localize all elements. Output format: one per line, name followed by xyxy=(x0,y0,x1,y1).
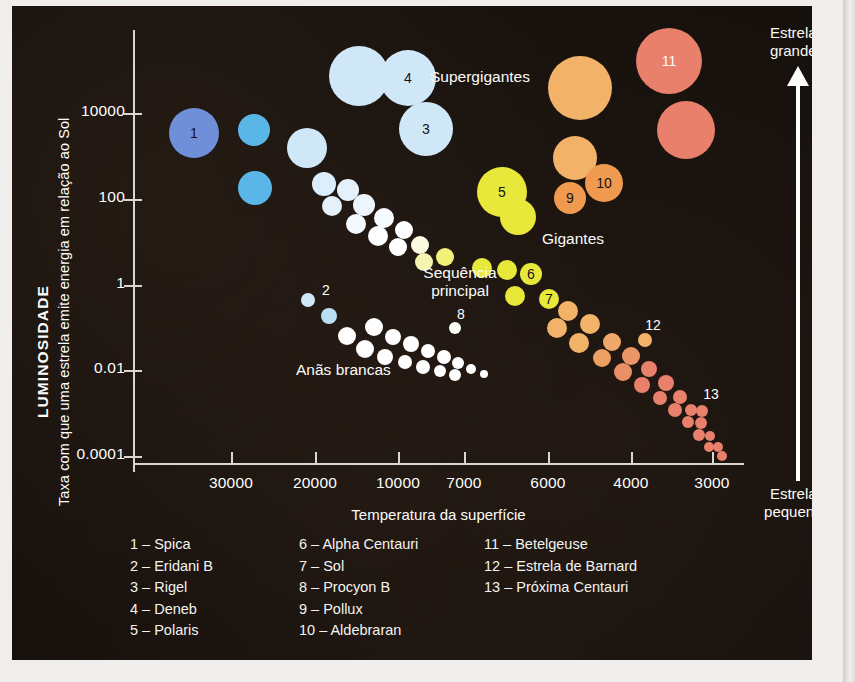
star-dot-supergiant xyxy=(657,101,715,159)
legend-item: 1 – Spica xyxy=(130,534,213,556)
legend-column-3: 11 – Betelgeuse12 – Estrela de Barnard13… xyxy=(484,534,637,599)
star-dot-main-sequence xyxy=(395,221,413,239)
annotation-white-dwarfs: Anãs brancas xyxy=(296,361,391,379)
star-dot-main-sequence xyxy=(411,236,429,254)
star-dot-main-sequence xyxy=(668,403,682,417)
x-tick xyxy=(464,452,466,463)
legend-item: 13 – Próxima Centauri xyxy=(484,577,637,599)
x-tick-label: 30000 xyxy=(185,474,277,492)
star-dot-white-dwarf xyxy=(403,336,419,352)
legend-item: 10 – Aldebraran xyxy=(299,620,418,642)
star-dot-white-dwarf xyxy=(480,370,488,378)
legend-item: 11 – Betelgeuse xyxy=(484,534,637,556)
star-dot-1 xyxy=(169,108,219,158)
size-arrow-head xyxy=(787,66,809,86)
star-dot-10 xyxy=(585,164,623,202)
star-dot-white-dwarf xyxy=(466,364,476,374)
star-dot-main-sequence xyxy=(695,417,707,429)
hr-diagram-plot: 1000010010.010.0001300002000010000700060… xyxy=(12,6,812,660)
legend-column-2: 6 – Alpha Centauri7 – Sol8 – Procyon B9 … xyxy=(299,534,418,642)
legend-item: 4 – Deneb xyxy=(130,599,213,621)
star-dot-white-dwarf xyxy=(338,327,356,345)
y-tick xyxy=(124,199,142,201)
y-tick xyxy=(124,370,142,372)
star-dot-white-dwarf xyxy=(385,329,401,345)
star-dot-white-dwarf xyxy=(421,344,435,358)
star-dot-4 xyxy=(380,50,436,106)
star-dot-main-sequence xyxy=(653,391,667,405)
x-tick xyxy=(398,452,400,463)
star-dot-main-sequence xyxy=(673,390,687,404)
x-tick xyxy=(315,452,317,463)
x-tick xyxy=(548,452,550,463)
star-dot-white-dwarf xyxy=(434,365,446,377)
star-dot-main-sequence xyxy=(658,375,674,391)
star-dot-white-dwarf xyxy=(437,350,451,364)
star-dot-main-sequence xyxy=(238,171,272,205)
star-dot-main-sequence xyxy=(389,238,407,256)
figure-page: 1000010010.010.0001300002000010000700060… xyxy=(0,0,855,682)
y-tick xyxy=(124,113,142,115)
y-tick-label: 0.0001 xyxy=(29,445,125,463)
y-tick-label: 10000 xyxy=(29,102,125,120)
annotation-small-stars: Estrelas pequenas xyxy=(754,485,812,521)
star-dot-main-sequence xyxy=(580,314,600,334)
star-dot-main-sequence xyxy=(634,377,650,393)
annotation-giants: Gigantes xyxy=(542,230,604,248)
star-number-13: 13 xyxy=(697,384,725,404)
star-dot-9 xyxy=(554,182,586,214)
star-dot-11 xyxy=(636,28,702,94)
star-dot-6 xyxy=(520,263,542,285)
legend-item: 2 – Eridani B xyxy=(130,556,213,578)
x-axis-origin-tick xyxy=(133,454,135,472)
x-tick xyxy=(631,452,633,463)
star-dot-main-sequence xyxy=(547,318,567,338)
star-dot-main-sequence xyxy=(641,361,657,377)
y-axis-title-main: LUMINOSIDADE xyxy=(34,285,52,418)
star-dot-white-dwarf xyxy=(321,308,337,324)
star-dot-main-sequence xyxy=(238,114,270,146)
y-tick xyxy=(124,285,142,287)
star-dot-main-sequence xyxy=(614,363,632,381)
star-dot-main-sequence xyxy=(287,128,327,168)
star-dot-3 xyxy=(399,102,453,156)
legend-item: 5 – Polaris xyxy=(130,620,213,642)
legend-item: 8 – Procyon B xyxy=(299,577,418,599)
star-dot-main-sequence xyxy=(717,451,727,461)
x-tick-label: 6000 xyxy=(502,474,594,492)
star-dot-main-sequence xyxy=(346,214,366,234)
page-spine xyxy=(843,0,855,682)
legend-item: 7 – Sol xyxy=(299,556,418,578)
star-number-12: 12 xyxy=(639,315,667,335)
star-dot-2 xyxy=(301,293,315,307)
star-dot-supergiant xyxy=(548,56,612,120)
chart-panel: 1000010010.010.0001300002000010000700060… xyxy=(12,6,812,660)
x-tick-label: 7000 xyxy=(418,474,510,492)
star-dot-white-dwarf xyxy=(356,340,374,358)
y-tick-label: 100 xyxy=(29,188,125,206)
legend-item: 3 – Rigel xyxy=(130,577,213,599)
star-dot-main-sequence xyxy=(593,349,611,367)
star-dot-main-sequence xyxy=(682,416,694,428)
star-dot-main-sequence xyxy=(693,429,705,441)
legend-item: 9 – Pollux xyxy=(299,599,418,621)
star-dot-main-sequence xyxy=(312,172,336,196)
star-dot-main-sequence xyxy=(374,208,394,228)
legend-item: 6 – Alpha Centauri xyxy=(299,534,418,556)
star-dot-main-sequence xyxy=(569,333,589,353)
annotation-main-sequence: Sequência principal xyxy=(404,264,516,300)
star-dot-13 xyxy=(696,405,708,417)
star-dot-main-sequence xyxy=(368,226,388,246)
y-axis-title-sub: Taxa com que uma estrela emite energia e… xyxy=(56,118,72,506)
star-dot-main-sequence xyxy=(603,333,621,351)
star-dot-white-dwarf xyxy=(398,355,412,369)
star-dot-12 xyxy=(638,333,652,347)
star-dot-7 xyxy=(539,289,559,309)
x-tick-label: 20000 xyxy=(269,474,361,492)
annotation-supergiants: Supergigantes xyxy=(430,68,530,86)
star-dot-8 xyxy=(449,322,461,334)
star-dot-white-dwarf xyxy=(365,318,383,336)
x-axis-line xyxy=(133,463,744,465)
star-dot-main-sequence xyxy=(322,196,342,216)
star-dot-white-dwarf xyxy=(452,357,464,369)
